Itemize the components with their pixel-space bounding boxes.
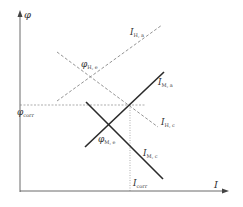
label-phi-h-e: φH, e xyxy=(81,59,98,70)
line-i-m-a xyxy=(85,72,164,147)
label-i-m-a: IM, a xyxy=(157,77,173,88)
x-axis-label: I xyxy=(213,179,219,190)
labels: IH, a IH, c IM, a IM, c φH, e φM, e φcor… xyxy=(17,27,175,189)
label-i-corr: Icorr xyxy=(132,178,148,189)
label-i-m-c: IM, c xyxy=(142,148,158,159)
label-phi-m-e: φM, e xyxy=(98,134,116,145)
label-i-h-a: IH, a xyxy=(129,27,144,38)
y-axis-label: φ xyxy=(24,9,31,20)
h-lines xyxy=(57,25,162,127)
y-axis-arrow-icon xyxy=(18,10,23,17)
m-lines xyxy=(85,72,164,179)
guides xyxy=(20,105,145,191)
evans-diagram: φ I IH, a IH, c IM, a IM, c φH, e φ xyxy=(0,0,243,207)
line-i-h-c xyxy=(57,52,158,127)
x-axis-arrow-icon xyxy=(222,189,229,194)
label-i-h-c: IH, c xyxy=(160,117,175,128)
label-phi-corr: φcorr xyxy=(17,107,35,118)
